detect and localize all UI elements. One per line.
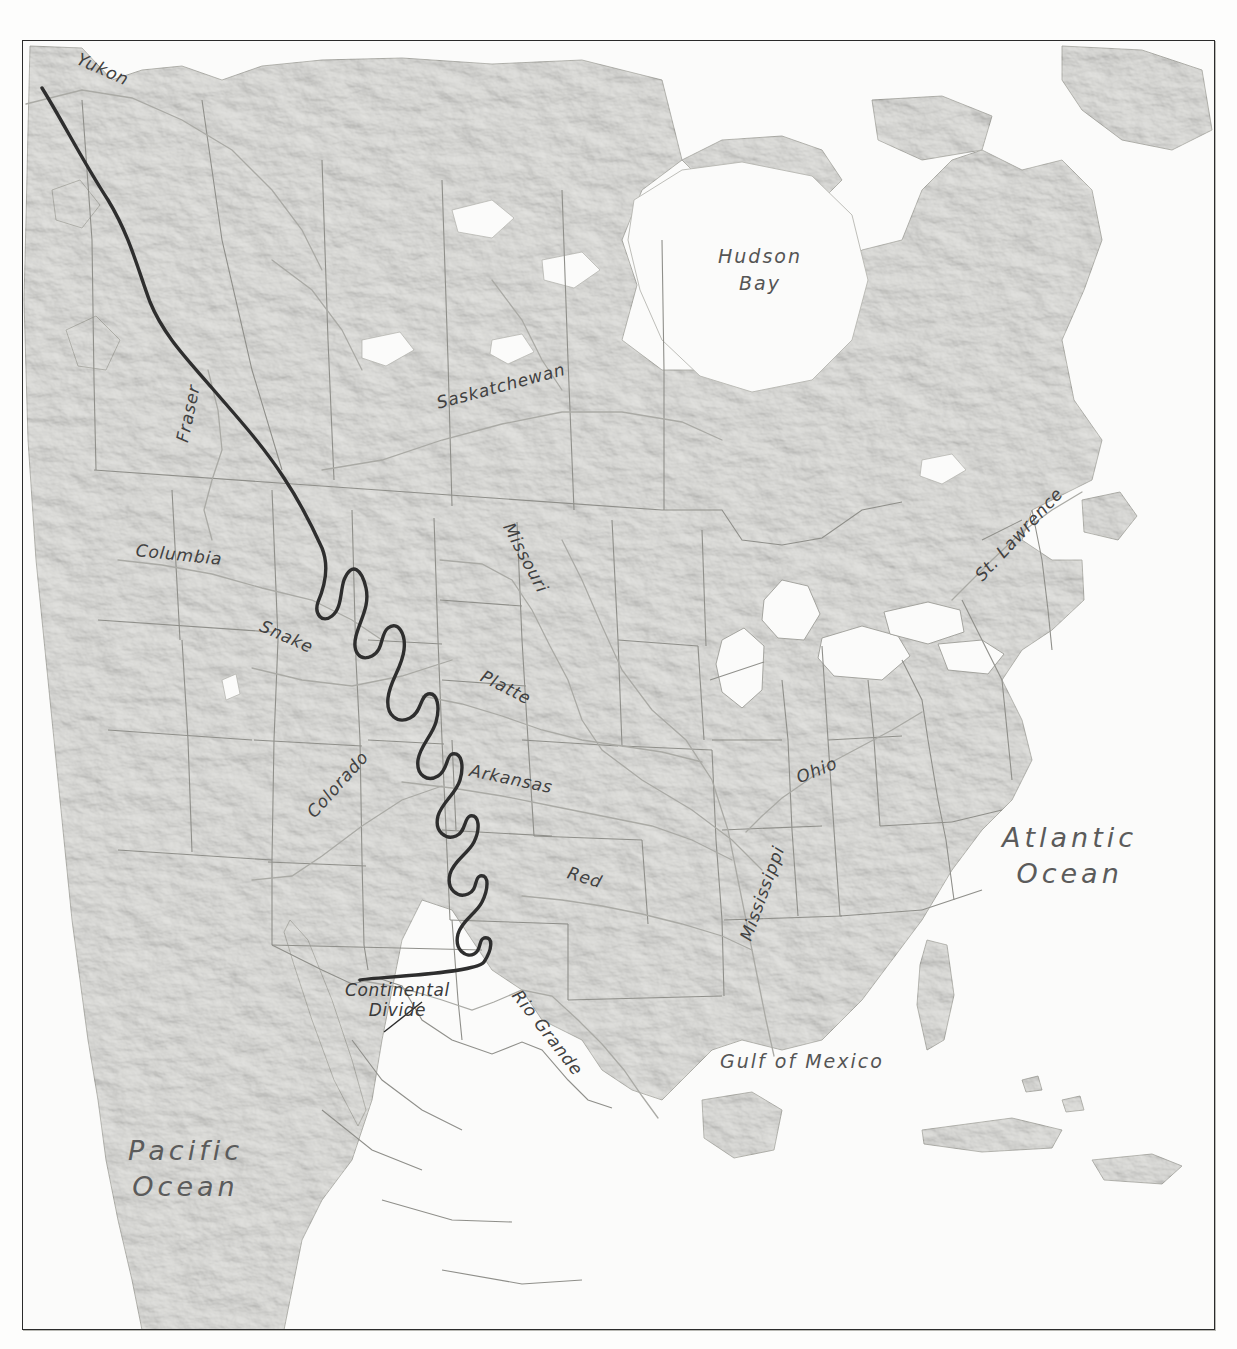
figure-caption bbox=[22, 1334, 1215, 1348]
map-figure: Pacific Ocean Atlantic Ocean Hudson Bay … bbox=[0, 0, 1237, 1349]
map-canvas bbox=[22, 40, 1215, 1330]
map-plate: Pacific Ocean Atlantic Ocean Hudson Bay … bbox=[22, 40, 1215, 1330]
